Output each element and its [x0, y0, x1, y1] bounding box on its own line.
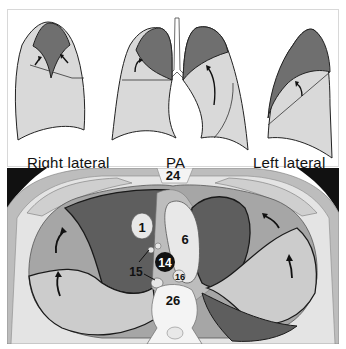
label-24: 24: [166, 168, 181, 183]
axial-chest-svg: 24 1 6 14 15 16 26: [7, 168, 339, 344]
label-6: 6: [181, 232, 188, 247]
projection-views-panel: Right lateral PA Left lateral: [7, 9, 339, 167]
label-16: 16: [175, 272, 185, 282]
left-lateral-lung: [268, 29, 332, 158]
label-15: 15: [129, 265, 143, 279]
lung-projections-svg: [8, 10, 340, 168]
pa-view-lungs: [112, 18, 248, 150]
right-lateral-lung: [15, 22, 84, 140]
label-1: 1: [138, 220, 145, 235]
label-14: 14: [158, 256, 172, 270]
label-26: 26: [166, 293, 180, 308]
axial-ct-panel: 24 1 6 14 15 16 26: [7, 168, 339, 344]
